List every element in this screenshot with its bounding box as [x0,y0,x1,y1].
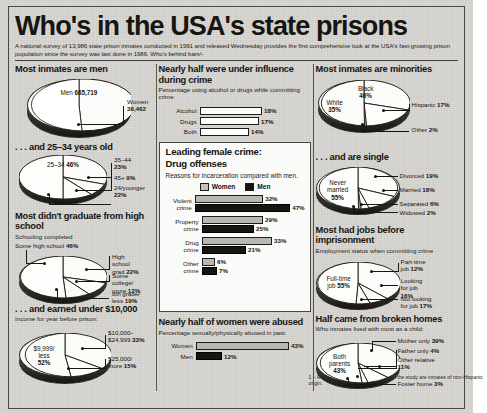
leader-age-45-v [111,178,112,191]
pie-label-age-2534: 25–34 46% [33,161,93,168]
bar-both [200,128,249,136]
pie-dot-widowed [352,205,355,208]
pie-dot-parttime [370,270,373,273]
chart-age: 25–34 46% 35–4423% 45+ 9% 24/younger22% [15,153,154,211]
pie-dot-separated [360,203,363,206]
pie-label-separated: Separated 6% [400,200,466,207]
leader-parttime-v [398,263,399,272]
section-subtitle-home: Who inmates lived with most as a child: [316,325,458,332]
bar-value-property-women: 29% [263,216,278,223]
pie-label-father: Father only 4% [398,347,466,354]
bar-other-men [202,267,217,275]
bar-drug-women [202,237,272,245]
pie-label-age-45: 45+ 9% [114,174,160,181]
pie-dot-father [378,365,381,368]
section-title-sex: Most inmates are men [15,64,154,74]
bar-row-alcohol: Alcohol 18% [159,106,311,115]
pie-label-married: Married 18% [400,186,466,193]
pie-dot-school-college [75,280,78,283]
leader-income-mid-h [83,348,105,349]
bar-abuse-women [196,342,289,350]
pie-label-women: Women38,462 [127,98,161,113]
page-title: Who's in the USA's state prisons [15,12,458,41]
bar-row-drugs: Drugs 17% [159,117,311,126]
pie-dot-women [77,123,80,126]
pie-label-income-mid: $10,000– $24,999 33% [108,329,161,344]
bar-value-abuse-men: 12% [222,353,237,360]
bar-label-violent: Violentcrime [166,197,195,211]
header-divider [15,60,458,61]
leader-hispanic-h [384,110,409,111]
legend-swatch-women [200,183,209,191]
bar-label-drugs: Drugs [159,118,200,125]
pie-dot-other-relative [356,375,359,378]
column-middle: Nearly half were under influence during … [159,64,311,390]
leader-income-high-h [69,368,105,369]
legend-female-crime: Women Men [166,183,305,191]
chart-home: Both parents 43% Mother only 39% Father … [316,335,458,391]
pie-dot-married [382,189,385,192]
section-title-race: Most inmates are minorities [316,64,458,74]
pie-dot-looking [380,284,383,287]
pie-dot-school-8th [55,288,58,291]
leader-foster-h [348,384,396,385]
bar-row-abuse-men: Men 12% [159,352,311,361]
bar-group-violent: Violentcrime 32% 47% [166,195,305,213]
leader-school-8th-h [57,298,109,299]
chart-female-crime: Leading female crime: Drug offenses Reas… [159,142,311,312]
leader-other-relative-h [358,368,396,369]
column-right: Most inmates are minorities Black46% Whi… [316,64,458,390]
leader-school-grad-v [109,256,110,270]
chart-employment: Full-time job 55% Part-time job 12% Look… [316,256,458,314]
chart-influence: Alcohol 18% Drugs 17% Both 14% [159,106,311,136]
leader-women-h [79,124,123,125]
pie-label-school-8th: 8th grade/ less 19% [112,290,161,305]
section-subtitle-abuse: Percentage sexually/physically abused in… [159,329,311,336]
bar-violent-women [195,195,263,203]
pie-label-black: Black46% [346,85,386,100]
pie-label-men: Men 665,719 [41,89,117,96]
leader-age-3544-h [89,177,111,178]
legend-item-women: Women [200,183,236,191]
chart-marital: Never married 55% Divorced 19% Married 1… [316,163,458,225]
infographic-frame: Who's in the USA's state prisons A natio… [8,6,465,409]
bar-label-drug: Drugcrime [166,239,202,253]
pie-label-income-low: $9,999/ less 52% [25,345,63,367]
bar-value-property-men: 25% [254,225,269,232]
leader-income-high-v [105,359,106,369]
bar-label-both: Both [159,128,200,135]
bar-value-both: 14% [249,128,264,135]
bar-label-abuse-men: Men [159,353,196,360]
leader-other-relative-v [396,359,397,369]
leader-income-mid-v [105,335,106,349]
bar-alcohol [200,107,262,115]
bar-value-drug-men: 21% [246,246,261,253]
bar-drug-men [202,246,246,254]
leader-mother-h [372,341,396,342]
section-subtitle-income: Income for year before prison: [15,315,154,322]
section-subtitle-employment: Employment status when committing crime [316,247,458,254]
pie-dot-income-mid [81,347,84,350]
section-subtitle-influence: Percentage using alcohol or drugs while … [159,86,311,100]
pie-label-fulltime: Full-time job 55% [318,275,360,290]
bar-abuse-men [196,352,222,360]
section-title-influence: Nearly half were under influence during … [159,64,311,85]
pie-label-age-3544: 35–4423% [114,156,160,171]
pie-dot-mother [370,349,373,352]
bar-value-abuse-women: 43% [289,342,304,349]
bar-group-other: Othercrime 6% 7% [166,258,305,276]
section-title-female-crime-line1: Leading female crime: [166,147,305,158]
pie-label-divorced: Divorced 19% [400,172,466,179]
legend-label-women: Women [212,183,236,190]
pie-dot-notlooking [360,298,363,301]
bar-property-women [202,216,263,224]
section-title-abuse: Nearly half of women were abused [159,317,311,327]
pie-label-mother: Mother only 39% [398,337,466,344]
chart-income: $9,999/ less 52% $10,000– $24,999 33% $2… [15,325,154,387]
pie-dot-divorced [374,175,377,178]
bar-row-both: Both 14% [159,127,311,136]
pie-dot-other-race [361,123,364,126]
bar-value-other-women: 6% [215,258,226,265]
pie-dot-age-24 [47,193,50,196]
leader-notlooking-h [362,299,398,300]
